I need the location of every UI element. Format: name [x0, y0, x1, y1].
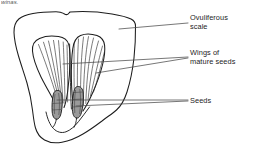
diagram-page: winas.: [0, 0, 253, 160]
label-wings-of-mature-seeds: Wings of mature seeds: [190, 48, 235, 67]
label-ovuliferous-scale: Ovuliferous scale: [190, 13, 228, 32]
left-seed: [52, 90, 62, 119]
label-seeds: Seeds: [190, 96, 211, 105]
